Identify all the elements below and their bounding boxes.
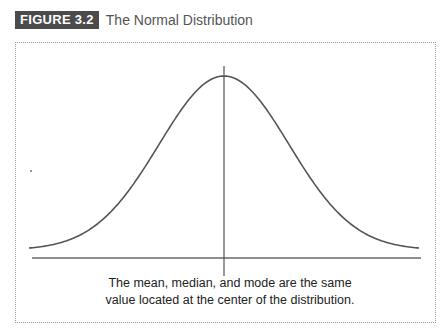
- caption-line-2: value located at the center of the distr…: [100, 292, 360, 309]
- stray-dot: [30, 170, 32, 172]
- caption-line-1: The mean, median, and mode are the same: [100, 275, 360, 292]
